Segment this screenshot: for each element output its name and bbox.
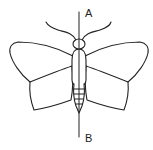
right-antenna — [82, 22, 111, 40]
butterfly-figure — [0, 0, 153, 150]
left-antenna — [46, 22, 76, 40]
right-hindwing — [85, 66, 128, 110]
axis-label-a: A — [85, 8, 92, 19]
butterfly-diagram: A B — [0, 0, 153, 150]
axis-label-b: B — [85, 133, 92, 144]
right-forewing — [85, 42, 148, 82]
left-forewing — [10, 42, 73, 82]
left-hindwing — [30, 66, 73, 110]
